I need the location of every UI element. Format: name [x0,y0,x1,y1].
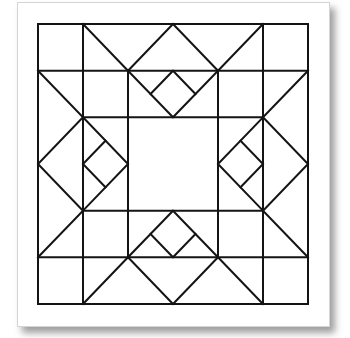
inner-grid-lines [83,71,263,258]
top-center-diamond [128,71,218,118]
full-grid-lines [38,24,308,304]
bottom-center-diamond [128,211,218,258]
right-center-diamond [218,117,263,210]
right-zigzag [263,71,308,258]
left-zigzag [38,71,83,258]
bottom-zigzag [83,257,263,304]
left-center-diamond [83,117,128,210]
top-zigzag [83,24,263,71]
quilt-block-diagram [0,0,350,338]
outer-border [38,24,308,304]
